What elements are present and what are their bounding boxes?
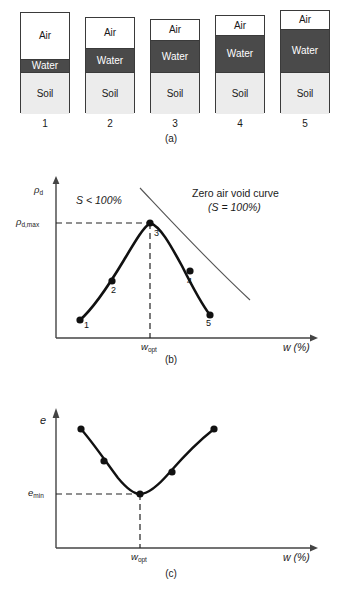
soil-column-4-water-layer: Water xyxy=(216,35,264,73)
panel-b-x-axis-label: w (%) xyxy=(283,341,310,353)
soil-column-4-air-layer: Air xyxy=(216,16,264,35)
compaction-point-3-label: 3 xyxy=(154,228,159,238)
soil-column-2-soil-layer: Soil xyxy=(86,73,134,114)
void-ratio-point-5 xyxy=(210,425,217,432)
soil-column-4: Air Water Soil xyxy=(215,15,265,113)
compaction-point-2 xyxy=(108,277,115,284)
soil-column-1-number: 1 xyxy=(20,118,70,129)
panel-c-void-ratio-chart: e emin wopt w (%) (c) xyxy=(0,400,342,605)
soil-column-1-air-layer: Air xyxy=(21,13,69,59)
panel-b-plot-area xyxy=(0,160,342,360)
soil-column-5-water-layer: Water xyxy=(281,29,329,73)
void-ratio-point-2 xyxy=(100,457,107,464)
panel-b-y-axis-label: ρd xyxy=(34,184,43,196)
soil-column-5-number: 5 xyxy=(280,118,330,129)
panel-b-x-axis-arrow xyxy=(310,335,318,342)
panel-b-saturation-annotation: S < 100% xyxy=(76,194,122,206)
soil-column-5-soil-layer: Soil xyxy=(281,73,329,114)
panel-a-caption: (a) xyxy=(0,133,342,144)
soil-column-5: Air Water Soil xyxy=(280,10,330,113)
void-ratio-point-1 xyxy=(77,425,84,432)
soil-column-2-number: 2 xyxy=(85,118,135,129)
panel-c-x-axis-arrow xyxy=(310,545,318,552)
compaction-point-4 xyxy=(186,267,193,274)
soil-column-3-water-layer: Water xyxy=(151,40,199,73)
soil-column-2-air-layer: Air xyxy=(86,18,134,48)
soil-column-1-water-layer: Water xyxy=(21,59,69,73)
soil-column-5-air-layer: Air xyxy=(281,11,329,29)
compaction-point-5-label: 5 xyxy=(206,318,211,328)
panel-b-zav-annotation-line1: Zero air void curve xyxy=(192,187,279,199)
soil-column-2-water-layer: Water xyxy=(86,48,134,73)
panel-b-zav-annotation-line2: (S = 100%) xyxy=(208,201,261,213)
panel-b-x-tick-wopt: wopt xyxy=(141,341,157,353)
soil-column-2: Air Water Soil xyxy=(85,17,135,113)
soil-column-3: Air Water Soil xyxy=(150,19,200,113)
soil-column-3-number: 3 xyxy=(150,118,200,129)
soil-column-4-soil-layer: Soil xyxy=(216,73,264,114)
panel-a-soil-phase-diagrams: Air Water Soil 1 Air Water Soil 2 Air Wa… xyxy=(0,0,342,142)
panel-b-compaction-curve-chart: ρd ρd,max S < 100% Zero air void curve (… xyxy=(0,160,342,360)
soil-column-4-number: 4 xyxy=(215,118,265,129)
void-ratio-point-3 xyxy=(136,490,143,497)
panel-c-emin-label: emin xyxy=(28,487,44,499)
panel-c-x-axis-label: w (%) xyxy=(283,551,310,563)
panel-b-caption: (b) xyxy=(0,354,342,365)
panel-b-y-axis-arrow xyxy=(53,176,60,184)
compaction-point-3 xyxy=(146,219,153,226)
compaction-point-4-label: 4 xyxy=(187,276,192,286)
panel-c-y-axis-arrow xyxy=(53,408,60,418)
soil-column-3-air-layer: Air xyxy=(151,20,199,40)
compaction-point-2-label: 2 xyxy=(111,285,116,295)
compaction-point-1 xyxy=(76,316,83,323)
void-ratio-point-4 xyxy=(168,468,175,475)
soil-column-1: Air Water Soil xyxy=(20,12,70,113)
soil-column-1-soil-layer: Soil xyxy=(21,73,69,114)
panel-c-caption: (c) xyxy=(0,568,342,579)
panel-b-rho-max-label: ρd,max xyxy=(16,216,39,228)
panel-c-y-axis-label: e xyxy=(40,414,46,426)
panel-c-x-tick-wopt: wopt xyxy=(131,551,147,563)
compaction-point-1-label: 1 xyxy=(84,320,89,330)
soil-column-3-soil-layer: Soil xyxy=(151,73,199,114)
